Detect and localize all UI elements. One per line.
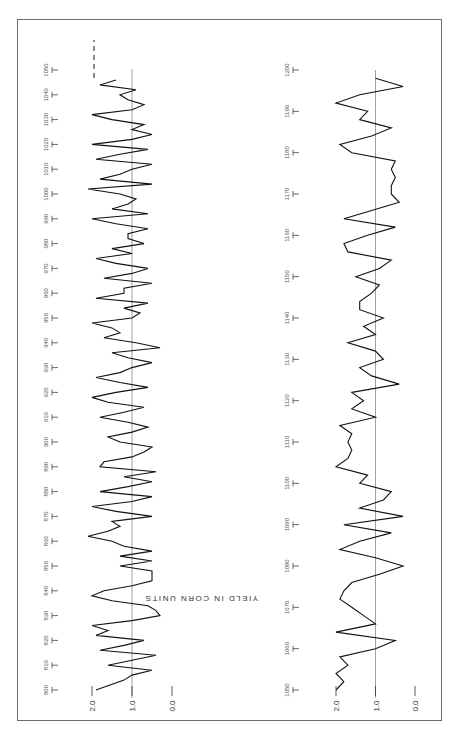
y-tick-label: 2.0 <box>332 700 341 712</box>
x-tick-label: 1130 <box>284 352 290 366</box>
x-tick-label: 820 <box>43 635 49 646</box>
x-tick-label: 1050 <box>43 63 49 77</box>
x-tick-label: 850 <box>43 560 49 571</box>
x-tick-label: 1100 <box>284 476 290 490</box>
x-tick-label: 1160 <box>284 228 290 242</box>
x-tick-label: 990 <box>43 213 49 224</box>
x-tick-label: 1000 <box>43 187 49 201</box>
y-tick-label: 1.0 <box>128 700 137 712</box>
x-tick-label: 870 <box>43 511 49 522</box>
panel-800-1050: 8008108208308408508608708808909009109209… <box>43 40 177 712</box>
x-tick-label: 880 <box>43 486 49 497</box>
y-axis-label: YIELD IN CORN UNITS <box>144 594 258 603</box>
x-tick-label: 970 <box>43 263 49 274</box>
y-tick-label: 0.0 <box>168 700 177 712</box>
x-tick-label: 1050 <box>284 683 290 697</box>
x-tick-label: 800 <box>43 684 49 695</box>
x-tick-label: 1190 <box>284 104 290 118</box>
y-axis-label-text: YIELD IN CORN UNITS <box>144 594 258 603</box>
x-tick-label: 1110 <box>284 435 290 448</box>
x-tick-label: 1080 <box>284 559 290 573</box>
x-tick-label: 1180 <box>284 146 290 160</box>
x-tick-label: 920 <box>43 387 49 398</box>
y-tick-label: 2.0 <box>88 700 97 712</box>
x-tick-label: 1140 <box>284 311 290 325</box>
x-tick-label: 890 <box>43 461 49 472</box>
x-tick-label: 1030 <box>43 112 49 126</box>
x-tick-label: 980 <box>43 238 49 249</box>
x-tick-label: 1200 <box>284 63 290 77</box>
x-tick-label: 900 <box>43 436 49 447</box>
x-tick-label: 1020 <box>43 137 49 151</box>
x-tick-label: 810 <box>43 660 49 671</box>
x-tick-label: 1060 <box>284 641 290 655</box>
y-tick-label: 1.0 <box>372 700 381 712</box>
x-tick-label: 1040 <box>43 87 49 101</box>
x-tick-label: 1090 <box>284 517 290 531</box>
y-tick-label: 0.0 <box>411 700 420 712</box>
x-tick-label: 1170 <box>284 187 290 201</box>
x-tick-label: 860 <box>43 536 49 547</box>
x-tick-label: 1070 <box>284 600 290 614</box>
panel-1050-1200: 1050106010701080109011001110112011301140… <box>284 63 420 712</box>
x-tick-label: 840 <box>43 585 49 596</box>
x-tick-label: 930 <box>43 362 49 373</box>
x-tick-label: 1010 <box>43 162 49 176</box>
x-tick-label: 950 <box>43 312 49 323</box>
yield-chart: 8008108208308408508608708808909009109209… <box>0 0 456 747</box>
x-tick-label: 1150 <box>284 270 290 284</box>
yield-line <box>336 78 403 690</box>
x-tick-label: 830 <box>43 610 49 621</box>
x-tick-label: 960 <box>43 288 49 299</box>
x-tick-label: 1120 <box>284 394 290 408</box>
x-tick-label: 910 <box>43 412 49 423</box>
x-tick-label: 940 <box>43 337 49 348</box>
